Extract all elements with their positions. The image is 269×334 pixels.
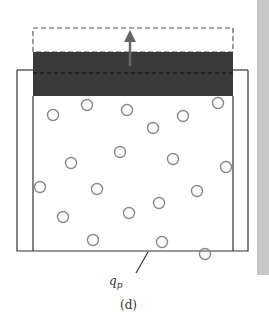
particle <box>154 198 165 209</box>
cylinder-outer-wall <box>17 70 248 251</box>
particle <box>82 100 93 111</box>
particle <box>221 162 232 173</box>
arrowhead-icon <box>124 30 136 42</box>
particle <box>200 249 211 260</box>
heat-arrow-icon <box>136 252 148 273</box>
side-gray-strip <box>257 0 269 275</box>
particle <box>35 182 46 193</box>
particle <box>58 212 69 223</box>
heat-label: qp <box>109 274 122 290</box>
piston-cylinder-diagram <box>0 0 269 334</box>
particle <box>66 158 77 169</box>
particle <box>92 184 103 195</box>
particle <box>48 110 59 121</box>
particle <box>178 111 189 122</box>
particle <box>148 123 159 134</box>
particle <box>88 235 99 246</box>
particle <box>213 98 224 109</box>
gas-particles <box>35 98 232 260</box>
figure-caption: (d) <box>120 298 137 312</box>
piston <box>33 52 233 96</box>
particle <box>157 237 168 248</box>
particle <box>122 105 133 116</box>
particle <box>115 147 126 158</box>
particle <box>168 154 179 165</box>
particle <box>124 208 135 219</box>
particle <box>192 186 203 197</box>
